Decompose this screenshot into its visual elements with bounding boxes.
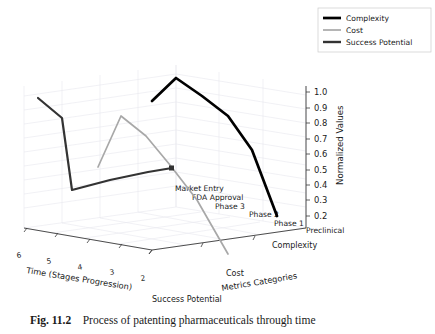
legend-label-complexity: Complexity [346, 14, 389, 23]
x-tick-label: 3 [109, 267, 115, 277]
legend[interactable]: Complexity Cost Success Potential [318, 8, 431, 52]
x-tick-label: 6 [16, 250, 22, 260]
x-tick-label: 2 [140, 273, 146, 283]
stage-label-preclinical: Preclinical [306, 226, 344, 235]
z-tick-label: 0.4 [314, 180, 327, 190]
legend-label-success-potential: Success Potential [346, 38, 412, 47]
figure-caption-text [71, 314, 83, 326]
z-tick-label: 0.8 [314, 118, 327, 128]
figure-caption: Fig. 11.2 Process of patenting pharmaceu… [30, 314, 430, 326]
stage-label-fda-approval: FDA Approval [192, 193, 243, 202]
grid-pane-left [24, 65, 176, 228]
x-axis-ticks [24, 228, 152, 254]
z-tick-label: 0.9 [314, 103, 327, 113]
y-axis-ticks [149, 236, 255, 254]
figure-caption-label: Fig. 11.2 [30, 314, 71, 326]
stage-label-phase-1: Phase 1 [274, 219, 304, 228]
y-tick-label: Success Potential [152, 295, 222, 304]
stage-labels: Market Entry FDA Approval Phase 3 Phase … [175, 184, 344, 235]
legend-label-cost: Cost [346, 26, 363, 35]
axis-spines [24, 86, 306, 250]
chart-3d-canvas: 6 5 4 3 2 Time (Stages Progression) Succ… [0, 0, 435, 310]
stage-label-phase-3: Phase 3 [215, 202, 245, 211]
series-marker-success-potential [169, 166, 174, 171]
z-tick-label: 0.3 [314, 195, 327, 205]
z-tick-labels: 0.2 0.3 0.4 0.5 0.6 0.7 0.8 0.9 1.0 [314, 87, 327, 221]
z-tick-label: 1.0 [314, 87, 327, 97]
z-axis-title: Normalized Values [335, 105, 345, 185]
z-tick-label: 0.2 [314, 211, 327, 221]
z-tick-label: 0.5 [314, 165, 327, 175]
stage-label-market-entry: Market Entry [175, 184, 224, 193]
z-axis-ticks [306, 92, 310, 216]
figure-caption-body: Process of patenting pharmaceuticals thr… [83, 314, 316, 326]
y-tick-label: Cost [226, 269, 244, 278]
z-tick-label: 0.6 [314, 149, 327, 159]
x-tick-label: 4 [77, 262, 83, 272]
figure-container: 6 5 4 3 2 Time (Stages Progression) Succ… [0, 0, 435, 334]
z-tick-label: 0.7 [314, 134, 327, 144]
x-tick-label: 5 [46, 256, 52, 266]
y-tick-label: Complexity [272, 241, 317, 250]
